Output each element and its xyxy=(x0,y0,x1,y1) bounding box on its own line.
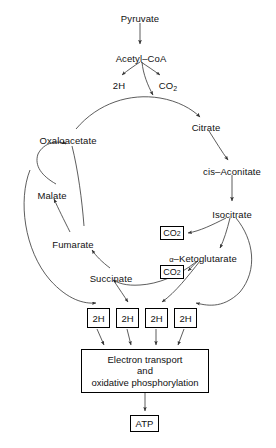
box-co2-upper: CO2 xyxy=(160,226,184,240)
box-2h-2: 2H xyxy=(116,308,139,328)
node-label-acetyl-coa: Acetyl–CoA xyxy=(116,53,167,64)
co2-top-subscript: 2 xyxy=(173,85,177,92)
box-co2-lower: CO2 xyxy=(160,265,184,279)
node-label-2h-top: 2H xyxy=(113,80,125,91)
node-label-alpha-ketoglutarate: α–Ketoglutarate xyxy=(169,253,237,265)
co2-lower-text: CO xyxy=(163,267,177,277)
node-label-isocitrate: Isocitrate xyxy=(212,209,252,220)
node-label-malate: Malate xyxy=(37,190,66,201)
arrow-2h4-to-etc xyxy=(178,329,184,345)
node-label-citrate: Citrate xyxy=(192,122,221,133)
box-atp: ATP xyxy=(130,415,159,432)
box-2h-3: 2H xyxy=(145,308,168,328)
box-2h-1: 2H xyxy=(87,308,110,328)
co2-upper-text: CO xyxy=(163,228,177,238)
etc-line-3: oxidative phosphorylation xyxy=(91,377,198,389)
arrow-citrate-to-cisaconitate xyxy=(209,131,228,160)
etc-line-2: and xyxy=(137,365,153,377)
arrow-2h1-to-etc xyxy=(97,329,104,345)
arrow-2h2-to-etc xyxy=(127,329,131,345)
arrow-fumarate-to-malate xyxy=(54,199,70,232)
arrow-oxaloacetate-to-citrate xyxy=(76,97,200,129)
arrow-malate-to-oxaloacetate-hook xyxy=(37,142,66,184)
co2-upper-subscript: 2 xyxy=(177,230,181,237)
arrow-isocitrate-to-co2-upper xyxy=(188,218,226,233)
co2-lower-subscript: 2 xyxy=(177,269,181,276)
node-label-oxaloacetate: Oxaloacetate xyxy=(39,135,96,146)
etc-line-1: Electron transport xyxy=(108,354,183,366)
krebs-cycle-diagram: Pyruvate Acetyl–CoA 2H CO2 Oxaloacetate … xyxy=(0,0,276,448)
arrow-acetylcoa-into-cycle xyxy=(142,62,153,95)
node-label-pyruvate: Pyruvate xyxy=(121,13,159,24)
node-label-cis-aconitate: cis–Aconitate xyxy=(203,166,261,177)
co2-top-text: CO xyxy=(159,80,173,91)
arrow-succinate-to-fumarate xyxy=(92,250,110,268)
node-label-succinate: Succinate xyxy=(90,273,133,284)
arrow-isocitrate-to-ketoglutarate xyxy=(220,218,230,248)
ketoglutarate-text: –Ketoglutarate xyxy=(174,253,237,264)
box-2h-4: 2H xyxy=(174,308,197,328)
cycle-inner-left-arc xyxy=(72,146,84,226)
box-electron-transport: Electron transport and oxidative phospho… xyxy=(81,349,209,393)
node-label-fumarate: Fumarate xyxy=(52,239,93,250)
node-label-co2-top: CO2 xyxy=(159,80,177,94)
